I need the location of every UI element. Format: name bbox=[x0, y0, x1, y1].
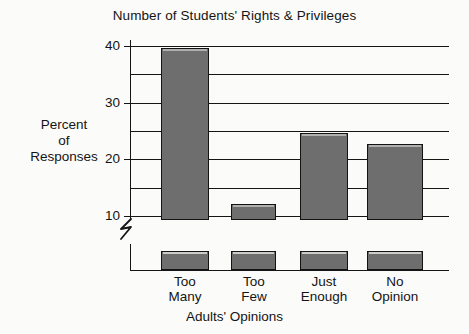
y-axis-spine-lower bbox=[130, 244, 131, 271]
category-label-just-enough-line-2: Enough bbox=[284, 289, 364, 304]
category-label-too-few-line-1: Too bbox=[214, 274, 294, 289]
category-label-too-many: Too Many bbox=[145, 274, 225, 304]
category-label-too-few-line-2: Few bbox=[214, 289, 294, 304]
bar-stub-too-few bbox=[231, 251, 276, 270]
category-label-just-enough: Just Enough bbox=[284, 274, 364, 304]
category-label-no-opinion: No Opinion bbox=[355, 274, 435, 304]
category-label-no-opinion-line-1: No bbox=[355, 274, 435, 289]
ytick-label-30: 30 bbox=[86, 95, 120, 110]
bar-too-many bbox=[161, 48, 209, 220]
category-label-too-many-line-1: Too bbox=[145, 274, 225, 289]
x-axis-baseline bbox=[130, 270, 449, 271]
y-axis-spine-upper bbox=[130, 40, 131, 220]
bar-too-few bbox=[231, 204, 276, 220]
category-label-no-opinion-line-2: Opinion bbox=[355, 289, 435, 304]
chart-page: Number of Students' Rights & Privileges … bbox=[0, 0, 469, 334]
bar-no-opinion bbox=[367, 144, 423, 220]
bar-stub-too-many bbox=[161, 251, 209, 270]
y-axis-label-line-1: Percent bbox=[18, 117, 110, 133]
ytick-label-40: 40 bbox=[86, 38, 120, 53]
bar-stub-no-opinion bbox=[367, 251, 423, 270]
ytick-label-10: 10 bbox=[86, 208, 120, 223]
x-axis-label: Adults' Opinions bbox=[0, 309, 469, 324]
category-label-just-enough-line-1: Just bbox=[284, 274, 364, 289]
bar-just-enough bbox=[300, 133, 348, 220]
chart-title: Number of Students' Rights & Privileges bbox=[0, 8, 469, 23]
y-axis-label-line-2: of bbox=[18, 133, 110, 149]
category-label-too-few: Too Few bbox=[214, 274, 294, 304]
axis-break-icon bbox=[118, 218, 144, 248]
category-label-too-many-line-2: Many bbox=[145, 289, 225, 304]
gridline-40 bbox=[130, 46, 449, 47]
bar-stub-just-enough bbox=[300, 251, 348, 270]
ytick-label-20: 20 bbox=[86, 151, 120, 166]
